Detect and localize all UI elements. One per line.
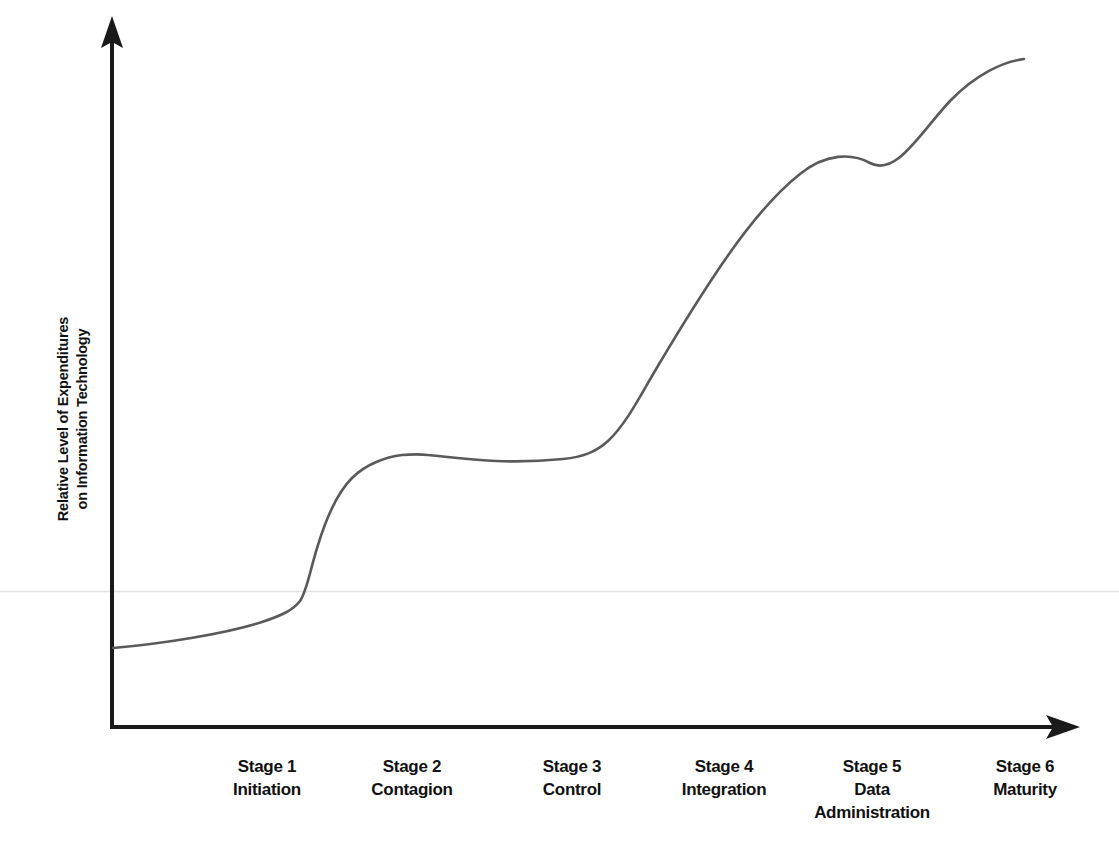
x-label-stage-6-line-2: Maturity [930,778,1119,801]
x-label-stage-6: Stage 6 Maturity [930,755,1119,801]
x-axis-labels: Stage 1 Initiation Stage 2 Contagion Sta… [112,755,1080,847]
stages-of-growth-chart: Relative Level of Expenditures on Inform… [0,0,1119,847]
growth-curve [113,59,1024,648]
plot-canvas [0,0,1119,847]
x-label-stage-6-line-1: Stage 6 [930,755,1119,778]
y-axis-title-line-1: Relative Level of Expenditures [54,269,73,569]
x-label-stage-5-line-3: Administration [777,801,967,824]
y-axis-title-line-2: on Information Technology [73,269,92,569]
y-axis-title: Relative Level of Expenditures on Inform… [54,269,92,569]
